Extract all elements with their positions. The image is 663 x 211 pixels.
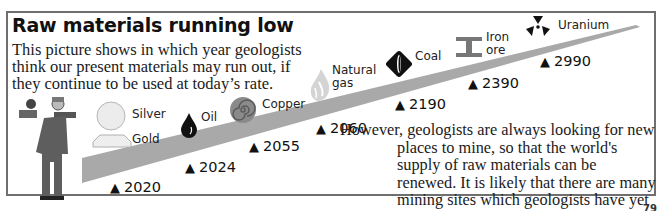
material-label-uranium: Uranium	[558, 19, 609, 32]
year-value: 2055	[263, 138, 300, 154]
intro-paragraph: This picture shows in which year geologi…	[12, 41, 312, 92]
material-label-natural-gas: Natural gas	[332, 64, 376, 90]
year-marker-2024: ▲2024	[185, 159, 236, 175]
year-marker-2990: ▲2990	[540, 53, 591, 69]
gas-flame-icon	[309, 68, 331, 102]
material-label-coal: Coal	[415, 50, 441, 63]
outro-paragraph: However, geologists are always looking f…	[340, 121, 659, 211]
year-marker-2390: ▲2390	[468, 75, 519, 91]
material-label-gold: Gold	[132, 133, 160, 146]
page-number: 79	[643, 203, 657, 211]
material-label-copper: Copper	[262, 98, 305, 111]
year-value: 2020	[124, 179, 161, 195]
year-value: 2024	[199, 159, 236, 175]
copper-spiral-icon	[229, 96, 257, 124]
material-label-oil: Oil	[201, 111, 217, 124]
year-value: 2990	[554, 53, 591, 69]
triangle-marker-icon: ▲	[395, 97, 405, 112]
year-marker-2055: ▲2055	[249, 138, 300, 154]
iron-ore-line2: ore	[486, 44, 509, 57]
triangle-marker-icon: ▲	[185, 160, 195, 175]
year-value: 2190	[409, 96, 446, 112]
iron-girder-icon	[455, 36, 483, 58]
material-label-silver: Silver	[132, 108, 166, 121]
triangle-marker-icon: ▲	[316, 121, 326, 136]
triangle-marker-icon: ▲	[540, 54, 550, 69]
material-label-iron-ore: Iron ore	[486, 31, 509, 57]
oil-drop-icon	[180, 112, 198, 138]
coal-diamond-icon	[383, 48, 415, 80]
natural-gas-line2: gas	[332, 77, 376, 90]
triangle-marker-icon: ▲	[249, 139, 259, 154]
triangle-marker-icon: ▲	[110, 180, 120, 195]
year-marker-2190: ▲2190	[395, 96, 446, 112]
silver-disc-icon	[95, 100, 127, 132]
triangle-marker-icon: ▲	[468, 76, 478, 91]
miner-illustration-icon	[14, 92, 84, 204]
page-title: Raw materials running low	[12, 14, 294, 36]
year-marker-2020: ▲2020	[110, 179, 161, 195]
gold-bar-icon	[92, 134, 132, 148]
year-value: 2390	[482, 75, 519, 91]
radiation-icon	[525, 15, 551, 37]
